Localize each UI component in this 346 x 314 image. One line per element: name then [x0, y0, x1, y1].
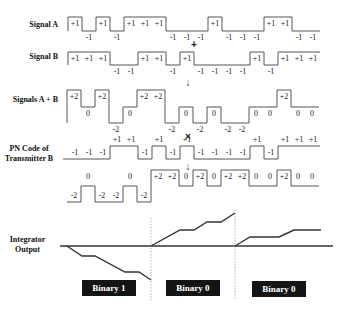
signal-b-waveform: +1+1+1-1-1+1+1-1+1-1-1-1-1+1-1+1+1+1: [68, 52, 320, 76]
chip-value: 0: [212, 109, 216, 118]
chip-value: -2: [99, 191, 106, 200]
chip-value: 0: [212, 172, 216, 181]
chip-value: +2: [196, 172, 205, 181]
decision-label-bit-3: Binary 0: [252, 281, 306, 297]
chip-value: +1: [281, 135, 290, 144]
chip-value: +1: [295, 54, 304, 63]
chip-value: -1: [86, 148, 93, 157]
chip-value: -2: [71, 191, 78, 200]
chip-value: -2: [225, 125, 232, 134]
chip-value: +2: [168, 172, 177, 181]
chip-value: 0: [268, 172, 272, 181]
chip-value: -1: [226, 148, 233, 157]
chip-value: -1: [226, 33, 233, 42]
chip-value: -1: [212, 67, 219, 76]
chip-value: +2: [238, 172, 247, 181]
times-operator: ×: [185, 131, 191, 142]
chip-value: +1: [253, 54, 262, 63]
chip-value: -1: [142, 148, 149, 157]
integrator-segment: [67, 246, 151, 280]
decision-label-bit-1: Binary 1: [82, 280, 136, 296]
chip-value: +1: [155, 54, 164, 63]
chip-value: +1: [211, 19, 220, 28]
chip-value: -2: [141, 191, 148, 200]
chip-value: -1: [240, 33, 247, 42]
chip-value: 0: [128, 172, 132, 181]
chip-value: +1: [155, 135, 164, 144]
chip-value: -1: [86, 33, 93, 42]
chip-value: +2: [140, 92, 149, 101]
chip-value: +1: [281, 19, 290, 28]
chip-value: -1: [114, 33, 121, 42]
chip-value: 0: [296, 172, 300, 181]
chip-value: -1: [198, 67, 205, 76]
chip-value: +1: [309, 54, 318, 63]
chip-value: -1: [184, 33, 191, 42]
chip-value: 0: [310, 172, 314, 181]
chip-value: +1: [127, 135, 136, 144]
chip-value: +1: [309, 135, 318, 144]
arrow-down-icon: ↓: [186, 161, 191, 172]
chip-value: -2: [169, 125, 176, 134]
integrator-segment: [151, 213, 235, 246]
chip-value: +1: [253, 135, 262, 144]
chip-value: +1: [99, 19, 108, 28]
chip-value: -1: [226, 67, 233, 76]
chip-value: +1: [71, 19, 80, 28]
chip-value: +1: [113, 135, 122, 144]
plus-operator: +: [191, 39, 197, 50]
arrow-down-icon: ↓: [186, 77, 191, 88]
chip-value: +1: [141, 19, 150, 28]
chip-value: 0: [296, 109, 300, 118]
chip-value: +1: [155, 19, 164, 28]
chip-value: 0: [128, 109, 132, 118]
chip-value: +2: [280, 92, 289, 101]
chip-value: -1: [128, 67, 135, 76]
cdma-diagram: +1-1+1-1+1+1+1-1-1-1+1-1-1-1+1+1-1-1 +1+…: [0, 0, 346, 314]
chip-value: +2: [98, 92, 107, 101]
chip-value: +1: [267, 19, 276, 28]
chip-value: -1: [114, 67, 121, 76]
chip-value: -2: [113, 125, 120, 134]
chip-value: 0: [254, 109, 258, 118]
chip-value: +2: [224, 172, 233, 181]
chip-value: -1: [296, 33, 303, 42]
chip-value: 0: [268, 109, 272, 118]
chip-value: -1: [212, 148, 219, 157]
chip-value: -1: [170, 148, 177, 157]
chip-value: -1: [100, 148, 107, 157]
chip-value: 0: [86, 109, 90, 118]
chip-value: -1: [268, 148, 275, 157]
chip-value: -1: [254, 33, 261, 42]
chip-value: 0: [184, 172, 188, 181]
chip-value: +2: [70, 92, 79, 101]
pn-code-waveform: -1-1-1+1+1-1+1-1+1-1-1-1-1+1-1+1+1+1: [63, 135, 320, 159]
chip-value: -2: [113, 191, 120, 200]
chip-value: +1: [71, 54, 80, 63]
chip-value: 0: [310, 109, 314, 118]
product-waveform: -20-2-20-2+2+20+20+2+200+200: [67, 170, 319, 202]
integrator-segment: [235, 230, 321, 246]
chip-value: +2: [154, 172, 163, 181]
chip-value: -1: [198, 148, 205, 157]
decision-label-bit-2: Binary 0: [166, 280, 220, 296]
chip-value: +1: [183, 54, 192, 63]
chip-value: -1: [170, 67, 177, 76]
chip-value: +2: [280, 172, 289, 181]
chip-value: +1: [141, 54, 150, 63]
chip-value: +1: [281, 54, 290, 63]
chip-value: +2: [154, 92, 163, 101]
chip-value: -1: [240, 148, 247, 157]
chip-value: -1: [72, 148, 79, 157]
chip-value: 0: [184, 109, 188, 118]
sum-waveform: +20+2-20+2+2-20-20-2-200+200: [67, 90, 319, 134]
chip-value: +1: [127, 19, 136, 28]
chip-value: -1: [198, 33, 205, 42]
chip-value: +1: [295, 135, 304, 144]
chip-value: -1: [170, 33, 177, 42]
chip-value: 0: [86, 172, 90, 181]
chip-value: 0: [254, 172, 258, 181]
chip-value: -1: [240, 67, 247, 76]
chip-value: +1: [99, 54, 108, 63]
chip-value: +1: [85, 54, 94, 63]
